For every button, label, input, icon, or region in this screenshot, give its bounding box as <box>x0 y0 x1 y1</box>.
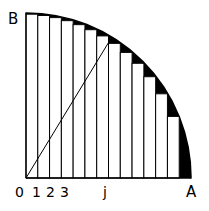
figure-container: B A 0 1 2 3 j <box>0 0 209 211</box>
rectangle-2 <box>38 15 50 178</box>
rectangle-5 <box>73 25 85 178</box>
rectangle-6 <box>85 30 97 178</box>
rectangle-10 <box>132 63 144 178</box>
rectangle-12 <box>156 94 168 178</box>
vertex-label-b: B <box>8 12 18 27</box>
rectangle-1 <box>26 14 38 178</box>
axis-label-2: 2 <box>46 185 55 199</box>
quarter-circle-riemann-diagram <box>0 0 209 211</box>
rectangle-13 <box>167 116 179 178</box>
inscribed-rectangles <box>26 14 179 178</box>
axis-label-1: 1 <box>32 185 41 199</box>
axis-label-j: j <box>103 185 107 199</box>
axis-label-3: 3 <box>60 185 69 199</box>
vertex-label-a: A <box>186 185 196 200</box>
rectangle-9 <box>120 52 132 178</box>
rectangle-8 <box>109 43 121 178</box>
rectangle-11 <box>144 77 156 178</box>
axis-label-origin: 0 <box>15 185 24 199</box>
rectangle-3 <box>50 18 62 178</box>
rectangle-7 <box>97 36 109 178</box>
rectangle-4 <box>61 21 73 178</box>
